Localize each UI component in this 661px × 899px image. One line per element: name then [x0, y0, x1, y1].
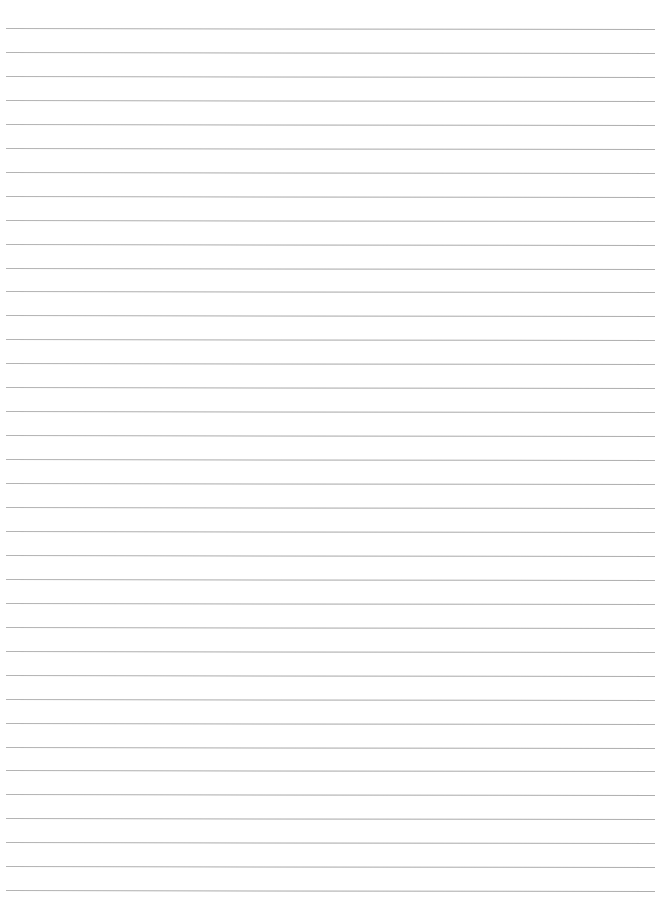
ruled-line: [6, 675, 655, 677]
ruled-line: [6, 747, 655, 749]
ruled-line: [6, 411, 655, 413]
ruled-line: [6, 627, 655, 629]
ruled-line: [6, 699, 655, 701]
ruled-line: [6, 196, 655, 198]
ruled-line: [6, 148, 655, 150]
ruled-line: [6, 76, 655, 78]
ruled-line: [6, 244, 655, 246]
ruled-line: [6, 770, 655, 772]
ruled-line: [6, 315, 655, 317]
ruled-line: [6, 459, 655, 461]
ruled-line: [6, 100, 655, 102]
ruled-line: [6, 28, 655, 30]
ruled-line: [6, 483, 655, 485]
ruled-line: [6, 435, 655, 437]
ruled-line: [6, 339, 655, 341]
lined-paper-page: [0, 0, 661, 899]
ruled-line: [6, 291, 655, 293]
ruled-line: [6, 387, 655, 389]
ruled-line: [6, 603, 655, 605]
ruled-line: [6, 363, 655, 365]
ruled-line: [6, 866, 655, 868]
ruled-line: [6, 531, 655, 533]
ruled-line: [6, 579, 655, 581]
ruled-line: [6, 651, 655, 653]
ruled-line: [6, 890, 655, 892]
ruled-line: [6, 555, 655, 557]
ruled-line: [6, 220, 655, 222]
ruled-line: [6, 268, 655, 270]
ruled-line: [6, 723, 655, 725]
ruled-line: [6, 794, 655, 796]
ruled-line: [6, 818, 655, 820]
ruled-line: [6, 172, 655, 174]
ruled-line: [6, 842, 655, 844]
ruled-line: [6, 52, 655, 54]
ruled-line: [6, 507, 655, 509]
ruled-line: [6, 124, 655, 126]
